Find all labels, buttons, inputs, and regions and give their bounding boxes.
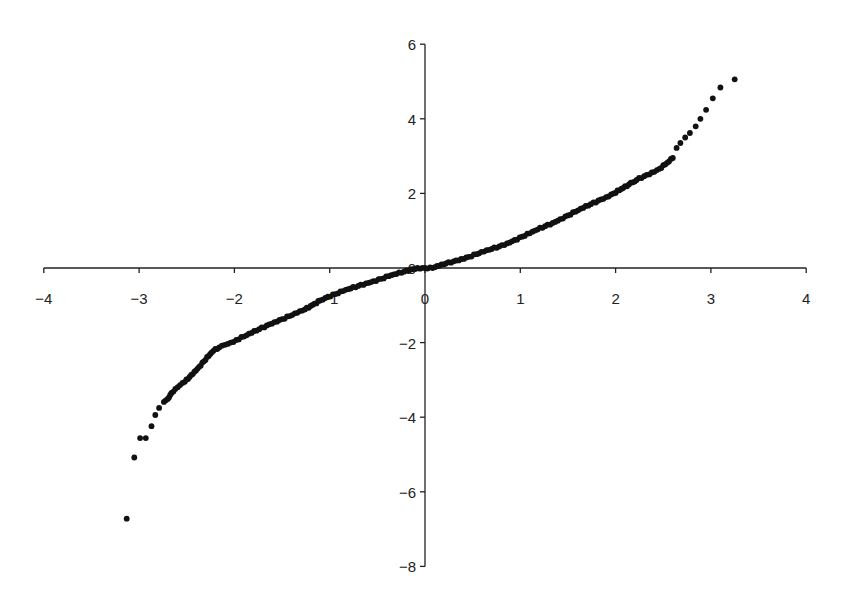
x-tick-label: −3 — [131, 290, 148, 307]
data-point — [687, 130, 693, 136]
data-point — [137, 435, 143, 441]
x-tick-label: 1 — [516, 290, 524, 307]
y-tick-label: −8 — [399, 558, 416, 575]
x-tick-label: 2 — [611, 290, 619, 307]
data-point — [131, 455, 137, 461]
y-tick-label: 6 — [408, 36, 416, 53]
x-tick-label: 0 — [421, 290, 429, 307]
y-tick-label: 4 — [408, 111, 416, 128]
y-tick-label: −6 — [399, 484, 416, 501]
data-points — [124, 76, 738, 521]
data-point — [698, 116, 704, 122]
data-point — [678, 140, 684, 146]
x-tick-label: −2 — [226, 290, 243, 307]
x-tick-label: −4 — [35, 290, 52, 307]
data-point — [693, 123, 699, 129]
data-point — [703, 107, 709, 113]
y-tick-label: −4 — [399, 409, 416, 426]
data-point — [682, 135, 688, 141]
x-tick-label: 3 — [707, 290, 715, 307]
x-tick-label: 4 — [802, 290, 810, 307]
data-point — [124, 516, 130, 522]
data-point — [152, 412, 158, 418]
y-tick-label: 2 — [408, 185, 416, 202]
data-point — [718, 85, 724, 91]
data-point — [674, 145, 680, 151]
data-point — [670, 155, 676, 161]
data-point — [710, 95, 716, 101]
data-point — [732, 76, 738, 82]
axes: −4−3−2−1012346420−2−4−6−8 — [35, 36, 810, 575]
data-point — [156, 405, 162, 411]
scatter-chart: −4−3−2−1012346420−2−4−6−8 — [0, 0, 849, 602]
data-point — [143, 435, 149, 441]
data-point — [149, 423, 155, 429]
y-tick-label: −2 — [399, 335, 416, 352]
